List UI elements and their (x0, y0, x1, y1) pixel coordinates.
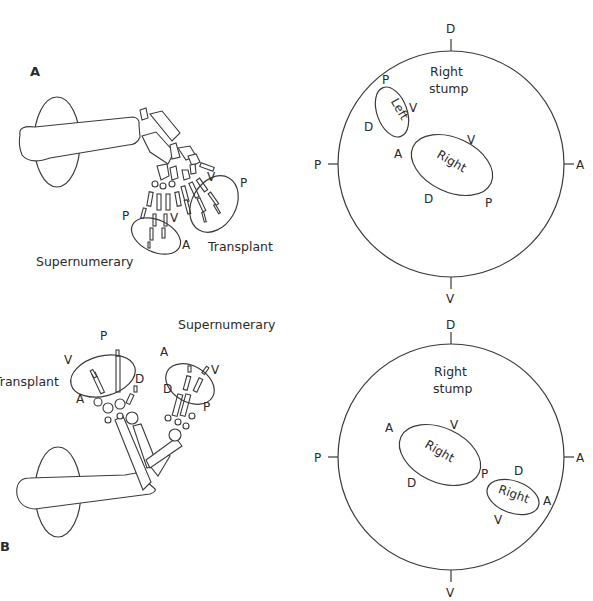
stump-title-line2: stump (433, 381, 473, 396)
axis-label-d: D (364, 120, 373, 134)
stump-title-line2: stump (429, 81, 469, 96)
axis-label-d: D (514, 464, 523, 478)
axis-label-d: D (135, 372, 144, 386)
ellipse-text: Right (422, 437, 457, 465)
transplant-label: Transplant (0, 374, 59, 389)
axis-label-p: P (240, 176, 247, 190)
axis-label-a: A (576, 158, 585, 172)
axis-label-a: A (182, 238, 191, 252)
supernumerary-label: Supernumerary (36, 254, 134, 269)
panel-a-limb-drawing: A (19, 64, 273, 269)
ellipse-text: Left (388, 96, 412, 123)
axis-label-v: V (467, 133, 476, 147)
carpal (140, 108, 148, 120)
supernumerary-label: Supernumerary (178, 317, 276, 332)
axis-label-p: P (122, 209, 129, 223)
supernumerary-digits (165, 366, 209, 429)
axis-label-v: V (207, 170, 216, 184)
axis-label-d: D (407, 476, 416, 490)
panel-b-stump-diagram: D V P A Right stump Right A V D P Right … (314, 318, 585, 600)
stump-title-line1: Right (430, 64, 463, 79)
axis-label-p: P (314, 158, 321, 172)
axis-label-v: V (446, 292, 455, 306)
axis-label-p: P (203, 400, 210, 414)
axis-label-v: V (211, 363, 220, 377)
axis-label-v: V (170, 211, 179, 225)
axis-label-a: A (543, 494, 552, 508)
axis-label-v: V (446, 586, 455, 600)
axis-label-p: P (100, 329, 107, 343)
carpal (170, 143, 180, 159)
axis-label-v: V (64, 353, 73, 367)
carpal (170, 166, 178, 180)
panel-b-label: B (0, 539, 10, 554)
carpal (169, 429, 181, 441)
axis-label-p: P (485, 196, 492, 210)
panel-a-label: A (30, 64, 40, 79)
humerus-bone (17, 473, 156, 509)
axis-label-a: A (76, 392, 85, 406)
axis-label-v: V (450, 418, 459, 432)
axis-label-d: D (424, 192, 433, 206)
axis-label-v: V (494, 513, 503, 527)
axis-label-v: V (409, 101, 418, 115)
carpal (157, 164, 169, 180)
axis-label-d: D (446, 318, 455, 332)
axis-label-p: P (382, 73, 389, 87)
axis-label-p: P (481, 467, 488, 481)
ellipse-text: Right (434, 147, 469, 175)
carpal (190, 164, 196, 174)
axis-label-d: D (446, 22, 455, 36)
axis-label-p: P (314, 451, 321, 465)
stump-title-line1: Right (434, 364, 467, 379)
axis-label-a: A (576, 451, 585, 465)
figure-canvas: A (0, 0, 593, 601)
panel-a-stump-diagram: D V P A Right stump Left P V D A Right V… (314, 22, 585, 306)
carpal (182, 170, 190, 180)
axis-label-a: A (160, 345, 169, 359)
transplant-label: Transplant (207, 239, 273, 254)
axis-label-a: A (385, 421, 394, 435)
panel-b-limb-drawing: B P V D A Transplant (0, 317, 276, 554)
axis-label-a: A (394, 147, 403, 161)
axis-label-d: D (163, 382, 172, 396)
